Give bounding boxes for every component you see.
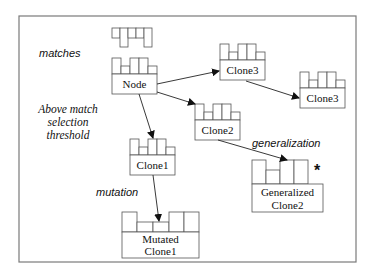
clone3-a-label: Clone3: [227, 64, 259, 76]
threshold-annotation-line1: Above match: [37, 103, 98, 115]
generalized-label-line1: Generalized: [261, 186, 315, 198]
diagram-canvas: Node Clone3 Clone3 Clone2: [0, 0, 373, 274]
generalization-annotation: generalization: [252, 137, 321, 149]
matches-annotation: matches: [39, 47, 81, 59]
mutated-label-line2: Clone1: [145, 245, 177, 257]
threshold-annotation-line2: selection: [48, 116, 89, 128]
threshold-annotation-line3: threshold: [46, 129, 89, 141]
generalized-label-line2: Clone2: [272, 199, 304, 211]
clone1-label: Clone1: [137, 159, 169, 171]
generalized-marker: *: [314, 162, 321, 179]
clone2-label: Clone2: [202, 124, 234, 136]
mutation-annotation: mutation: [96, 186, 138, 198]
mutated-label-line1: Mutated: [142, 233, 179, 245]
clone3-b-label: Clone3: [307, 92, 339, 104]
node-label: Node: [123, 78, 147, 90]
